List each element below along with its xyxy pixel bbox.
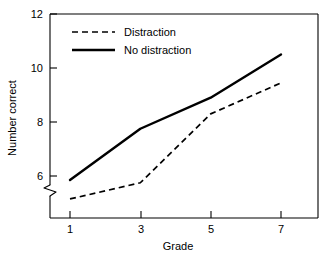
x-axis-title: Grade [163, 240, 194, 252]
legend-label-no-distraction: No distraction [124, 44, 191, 56]
y-axis-tick-labels: 12 10 8 6 [31, 8, 43, 182]
y-axis-break-icon [44, 185, 56, 196]
x-tick-label-7: 7 [278, 223, 284, 235]
line-chart-svg: 12 10 8 6 1 3 5 7 Grade Number correct [0, 0, 336, 254]
x-tick-label-5: 5 [208, 223, 214, 235]
y-tick-label-6: 6 [37, 170, 43, 182]
chart-figure: 12 10 8 6 1 3 5 7 Grade Number correct [0, 0, 336, 254]
x-axis-tick-labels: 1 3 5 7 [67, 223, 284, 235]
chart-legend: Distraction No distraction [72, 26, 191, 56]
x-tick-label-1: 1 [67, 223, 73, 235]
legend-label-distraction: Distraction [124, 26, 176, 38]
y-axis-title: Number correct [6, 80, 18, 156]
y-tick-label-8: 8 [37, 116, 43, 128]
y-axis-ticks [50, 14, 57, 176]
data-series-group [70, 55, 281, 199]
series-line-no-distraction [70, 55, 281, 181]
x-tick-label-3: 3 [138, 223, 144, 235]
y-tick-label-10: 10 [31, 62, 43, 74]
x-axis-ticks [70, 211, 281, 218]
series-line-distraction [70, 83, 281, 199]
y-tick-label-12: 12 [31, 8, 43, 20]
